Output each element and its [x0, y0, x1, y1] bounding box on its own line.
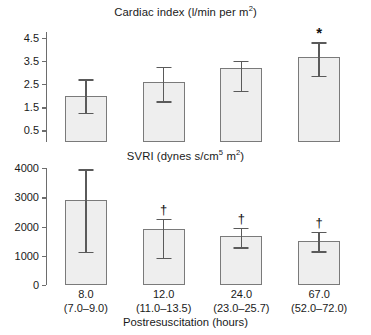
svri-y-tick — [42, 285, 47, 286]
chart-title-svri: SVRI (dynes s/cm5 m2) — [0, 150, 371, 162]
x-label-range: (52.0–72.0) — [291, 302, 347, 316]
error-bar-cap-lower — [156, 101, 171, 102]
x-label-12.0: 12.0(11.0–13.5) — [136, 288, 191, 315]
panel-cardiac-index: Cardiac index (l/min per m2) 0.51.52.53.… — [0, 0, 371, 148]
cardiac-index-y-tick-label: 1.5 — [24, 101, 39, 113]
y-axis-line-svri — [46, 168, 47, 285]
plot-area-svri: 01000200030004000††† — [46, 168, 357, 285]
x-label-range: (23.0–25.7) — [213, 302, 269, 316]
error-bar-cardiac-index-12.0 — [163, 67, 164, 102]
svri-y-tick-label: 0 — [33, 279, 39, 291]
svri-y-tick — [42, 256, 47, 257]
svri-y-tick — [42, 197, 47, 198]
svri-y-tick — [42, 227, 47, 228]
cardiac-index-y-tick — [42, 38, 47, 39]
x-label-value: 67.0 — [308, 288, 329, 300]
error-bar-svri-24.0 — [241, 228, 242, 247]
error-bar-cap-lower — [78, 113, 93, 114]
x-label-67.0: 67.0(52.0–72.0) — [291, 288, 347, 315]
error-bar-cap-lower — [156, 258, 171, 259]
chart-title-cardiac-index-main: Cardiac index (l/min per m — [114, 6, 248, 18]
x-label-value: 12.0 — [153, 288, 174, 300]
error-bar-svri-8.0 — [85, 169, 86, 251]
error-bar-cap-lower — [78, 252, 93, 253]
error-bar-cap-upper — [234, 61, 249, 62]
chart-title-svri-main: SVRI (dynes s/cm — [127, 150, 219, 162]
x-label-range: (11.0–13.5) — [136, 302, 191, 316]
cardiac-index-y-tick — [42, 84, 47, 85]
error-bar-cap-lower — [312, 251, 327, 252]
cardiac-index-y-tick-label: 3.5 — [24, 55, 39, 67]
significance-marker-cardiac-index-67.0: * — [316, 25, 322, 40]
x-label-range: (7.0–9.0) — [64, 302, 108, 316]
error-bar-cap-upper — [78, 169, 93, 170]
significance-marker-svri-24.0: † — [238, 212, 245, 225]
svri-y-tick — [42, 168, 47, 169]
error-bar-cap-upper — [312, 42, 327, 43]
cardiac-index-y-tick-label: 2.5 — [24, 78, 39, 90]
x-label-value: 8.0 — [78, 288, 93, 300]
x-axis-title: Postresuscitation (hours) — [0, 316, 371, 328]
error-bar-cap-upper — [234, 228, 249, 229]
figure-cardiac-svri: Cardiac index (l/min per m2) 0.51.52.53.… — [0, 0, 371, 335]
error-bar-svri-12.0 — [163, 219, 164, 258]
x-axis-category-labels: 8.0(7.0–9.0)12.0(11.0–13.5)24.0(23.0–25.… — [46, 288, 357, 316]
error-bar-cap-upper — [156, 219, 171, 220]
cardiac-index-y-tick-label: 4.5 — [24, 32, 39, 44]
svri-y-tick-label: 2000 — [15, 221, 39, 233]
panel-svri: SVRI (dynes s/cm5 m2) 01000200030004000†… — [0, 148, 371, 293]
error-bar-cardiac-index-67.0 — [318, 42, 319, 76]
chart-title-svri-tail: ) — [240, 150, 244, 162]
error-bar-cardiac-index-8.0 — [85, 79, 86, 113]
error-bar-cap-lower — [312, 76, 327, 77]
significance-marker-svri-12.0: † — [160, 203, 167, 216]
x-label-24.0: 24.0(23.0–25.7) — [213, 288, 269, 315]
cardiac-index-y-tick — [42, 61, 47, 62]
error-bar-cap-upper — [312, 232, 327, 233]
error-bar-cap-lower — [234, 247, 249, 248]
x-label-value: 24.0 — [231, 288, 252, 300]
error-bar-svri-67.0 — [318, 232, 319, 251]
chart-title-cardiac-index: Cardiac index (l/min per m2) — [0, 6, 371, 18]
error-bar-cap-upper — [78, 79, 93, 80]
significance-marker-svri-67.0: † — [316, 216, 323, 229]
plot-area-cardiac-index: 0.51.52.53.54.5* — [46, 32, 357, 142]
cardiac-index-y-tick-label: 0.5 — [24, 124, 39, 136]
error-bar-cap-upper — [156, 67, 171, 68]
svri-y-tick-label: 1000 — [15, 250, 39, 262]
cardiac-index-y-tick — [42, 130, 47, 131]
chart-title-cardiac-index-tail: ) — [253, 6, 257, 18]
error-bar-cardiac-index-24.0 — [241, 61, 242, 91]
y-axis-line-cardiac-index — [46, 32, 47, 142]
chart-title-svri-mid: m — [223, 150, 236, 162]
cardiac-index-y-tick — [42, 107, 47, 108]
error-bar-cap-lower — [234, 91, 249, 92]
svri-y-tick-label: 3000 — [15, 191, 39, 203]
x-label-8.0: 8.0(7.0–9.0) — [64, 288, 108, 315]
svri-y-tick-label: 4000 — [15, 162, 39, 174]
